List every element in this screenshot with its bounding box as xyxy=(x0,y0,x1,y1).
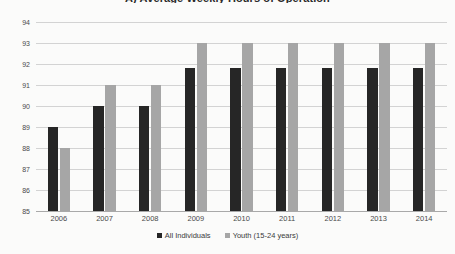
y-axis-tick: 91 xyxy=(22,82,30,89)
y-axis-tick: 87 xyxy=(22,166,30,173)
x-axis-tick: 2012 xyxy=(310,214,356,223)
x-axis-tick: 2014 xyxy=(401,214,447,223)
bar-2014-series-0 xyxy=(413,68,424,211)
legend-label: Youth (15-24 years) xyxy=(233,231,299,240)
y-axis-tick: 89 xyxy=(22,124,30,131)
bar-2013-series-1 xyxy=(379,43,390,211)
bar-2009-series-0 xyxy=(185,68,196,211)
bar-2010-series-1 xyxy=(242,43,253,211)
bar-group xyxy=(173,22,219,211)
bar-2006-series-1 xyxy=(60,148,71,211)
bar-group xyxy=(36,22,82,211)
x-axis-tick: 2011 xyxy=(264,214,310,223)
bar-chart: A) Average Weekly Hours of Operation 949… xyxy=(0,0,455,254)
bar-group xyxy=(82,22,128,211)
bars-layer xyxy=(36,22,447,211)
bar-2012-series-0 xyxy=(322,68,333,211)
y-axis-tick: 90 xyxy=(22,103,30,110)
legend-item[interactable]: Youth (15-24 years) xyxy=(225,231,299,240)
x-axis-tick: 2008 xyxy=(127,214,173,223)
y-axis-tick: 86 xyxy=(22,187,30,194)
bar-2008-series-1 xyxy=(151,85,162,211)
bar-group xyxy=(356,22,402,211)
x-axis-tick: 2006 xyxy=(36,214,82,223)
legend-swatch-icon xyxy=(157,233,162,238)
bar-group xyxy=(264,22,310,211)
bar-2012-series-1 xyxy=(334,43,345,211)
bar-2008-series-0 xyxy=(139,106,150,211)
chart-title: A) Average Weekly Hours of Operation xyxy=(0,0,455,3)
bar-group xyxy=(127,22,173,211)
legend-label: All Individuals xyxy=(165,231,211,240)
x-axis-tick-labels: 200620072008200920102011201220132014 xyxy=(36,214,447,228)
y-axis-tick: 94 xyxy=(22,19,30,26)
bar-2013-series-0 xyxy=(367,68,378,211)
x-axis-tick: 2009 xyxy=(173,214,219,223)
x-axis-tick: 2013 xyxy=(356,214,402,223)
bar-group xyxy=(219,22,265,211)
y-axis-tick-labels: 94939291908988878685 xyxy=(0,22,34,211)
bar-group xyxy=(310,22,356,211)
chart-legend: All IndividualsYouth (15-24 years) xyxy=(0,231,455,240)
x-axis-tick: 2007 xyxy=(82,214,128,223)
bar-2011-series-0 xyxy=(276,68,287,211)
bar-2014-series-1 xyxy=(425,43,436,211)
x-axis-line xyxy=(36,211,447,212)
legend-item[interactable]: All Individuals xyxy=(157,231,211,240)
bar-group xyxy=(401,22,447,211)
bar-2009-series-1 xyxy=(197,43,208,211)
x-axis-tick: 2010 xyxy=(219,214,265,223)
y-axis-tick: 93 xyxy=(22,40,30,47)
bar-2011-series-1 xyxy=(288,43,299,211)
bar-2010-series-0 xyxy=(230,68,241,211)
legend-swatch-icon xyxy=(225,233,230,238)
bar-2006-series-0 xyxy=(48,127,59,211)
bar-2007-series-0 xyxy=(93,106,104,211)
y-axis-tick: 88 xyxy=(22,145,30,152)
y-axis-tick: 92 xyxy=(22,61,30,68)
y-axis-tick: 85 xyxy=(22,208,30,215)
bar-2007-series-1 xyxy=(105,85,116,211)
